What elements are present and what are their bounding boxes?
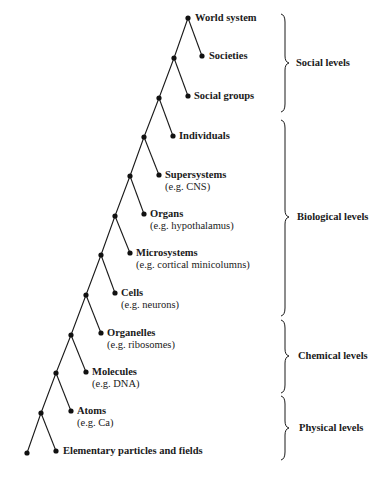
- level-name: Elementary particles and fields: [63, 445, 203, 457]
- levels-tree-diagram: [0, 0, 385, 484]
- node-spine: [156, 95, 161, 100]
- node-supersystems: [156, 172, 161, 177]
- group-label-biological: Biological levels: [297, 211, 368, 223]
- branch-social-groups: [174, 58, 188, 96]
- node-organs: [141, 211, 146, 216]
- level-example: (e.g. DNA): [92, 378, 140, 390]
- node-leaf-bottom: [24, 450, 29, 455]
- level-name: Cells: [121, 287, 179, 299]
- level-example: (e.g. ribosomes): [107, 339, 175, 351]
- level-name: Atoms: [77, 405, 113, 417]
- node-spine: [98, 252, 103, 257]
- node-organelles: [98, 330, 103, 335]
- level-label-molecules: Molecules (e.g. DNA): [92, 366, 140, 389]
- group-label-social: Social levels: [296, 57, 350, 69]
- tree-nodes: [24, 15, 204, 455]
- branch-cells: [101, 255, 115, 293]
- branch-supersystems: [144, 137, 159, 175]
- node-individuals: [170, 133, 175, 138]
- node-spine: [53, 370, 58, 375]
- level-name: Social groups: [194, 90, 254, 102]
- level-label-social-groups: Social groups: [194, 90, 254, 102]
- level-name: Molecules: [92, 366, 140, 378]
- node-spine: [38, 410, 43, 415]
- brace-social: [281, 14, 289, 112]
- group-label-physical: Physical levels: [299, 422, 363, 434]
- node-spine: [141, 134, 146, 139]
- level-name: World system: [195, 12, 257, 24]
- node-molecules: [83, 369, 88, 374]
- level-label-organs: Organs (e.g. hypothalamus): [150, 208, 234, 231]
- level-example: (e.g. hypothalamus): [150, 220, 234, 232]
- branch-organelles: [86, 295, 101, 333]
- brace-chemical: [281, 320, 289, 393]
- branch-organs: [130, 176, 144, 214]
- level-name: Organelles: [107, 327, 175, 339]
- node-microsystems: [127, 250, 132, 255]
- branch-individuals: [159, 98, 173, 136]
- node-spine: [127, 173, 132, 178]
- level-example: (e.g. CNS): [165, 181, 226, 193]
- group-label-chemical: Chemical levels: [298, 350, 368, 362]
- level-label-cells: Cells (e.g. neurons): [121, 287, 179, 310]
- node-societies: [199, 53, 204, 58]
- level-label-individuals: Individuals: [179, 130, 230, 142]
- level-label-elementary: Elementary particles and fields: [63, 445, 203, 457]
- node-social-groups: [185, 93, 190, 98]
- level-name: Microsystems: [136, 247, 250, 259]
- branch-microsystems: [115, 216, 130, 253]
- level-example: (e.g. Ca): [77, 417, 113, 429]
- brace-biological: [281, 120, 289, 316]
- level-label-microsystems: Microsystems (e.g. cortical minicolumns): [136, 247, 250, 270]
- level-name: Organs: [150, 208, 234, 220]
- level-example: (e.g. neurons): [121, 299, 179, 311]
- branch-atoms: [56, 373, 71, 411]
- level-name: Societies: [209, 50, 248, 62]
- node-atoms: [68, 408, 73, 413]
- level-label-societies: Societies: [209, 50, 248, 62]
- node-cells: [112, 290, 117, 295]
- branch-elementary: [41, 413, 56, 451]
- branch-societies: [188, 18, 202, 56]
- node-spine: [112, 213, 117, 218]
- level-label-organelles: Organelles (e.g. ribosomes): [107, 327, 175, 350]
- level-label-atoms: Atoms (e.g. Ca): [77, 405, 113, 428]
- branch-molecules: [71, 335, 86, 372]
- node-elementary: [53, 448, 58, 453]
- node-spine: [171, 55, 176, 60]
- node-world-system: [185, 15, 190, 20]
- level-label-world-system: World system: [195, 12, 257, 24]
- node-spine: [83, 292, 88, 297]
- group-braces: [281, 14, 289, 460]
- node-spine: [68, 332, 73, 337]
- level-name: Individuals: [179, 130, 230, 142]
- level-label-supersystems: Supersystems (e.g. CNS): [165, 169, 226, 192]
- level-name: Supersystems: [165, 169, 226, 181]
- level-example: (e.g. cortical minicolumns): [136, 259, 250, 271]
- brace-physical: [281, 396, 289, 460]
